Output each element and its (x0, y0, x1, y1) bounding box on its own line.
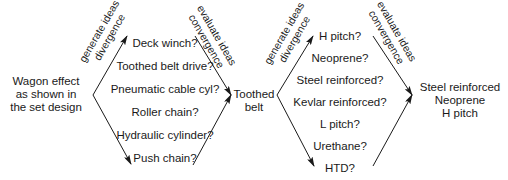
divergence-convergence-diagram: Wagon effect as shown in the set design … (0, 0, 508, 180)
start-problem-text: Wagon effect as shown in the set design (0, 75, 92, 114)
result-text-2: Steel reinforced Neoprene H pitch (412, 81, 508, 120)
idea-item: Kevlar reinforced? (285, 96, 395, 109)
idea-item: Urethane? (290, 140, 390, 153)
result-line-1: Steel reinforced (412, 81, 508, 94)
idea-item: Toothed belt drive? (110, 60, 220, 73)
idea-item: Push chain? (110, 152, 220, 165)
result-line-2: Neoprene (412, 94, 508, 107)
start-line-2: as shown in (0, 88, 92, 101)
idea-item: Pneumatic cable cyl? (103, 83, 227, 96)
result-line-2: belt (232, 101, 276, 114)
result-text-1: Toothed belt (232, 88, 276, 114)
result-line-3: H pitch (412, 107, 508, 120)
idea-item: Steel reinforced? (290, 74, 390, 87)
idea-item: Hydraulic cylinder? (110, 129, 220, 142)
idea-item: Deck winch? (110, 37, 220, 50)
start-line-1: Wagon effect (0, 75, 92, 88)
idea-item: Neoprene? (290, 52, 390, 65)
idea-item: L pitch? (290, 118, 390, 131)
result-line-1: Toothed (232, 88, 276, 101)
idea-item: Roller chain? (110, 106, 220, 119)
idea-item: HTD? (290, 162, 390, 175)
start-line-3: the set design (0, 101, 92, 114)
idea-item: H pitch? (290, 30, 390, 43)
